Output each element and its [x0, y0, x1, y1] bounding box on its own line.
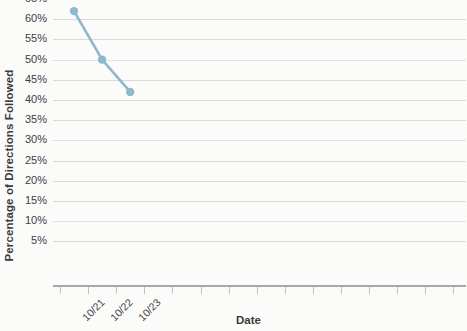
- line-chart: Percentage of Directions Followed 65%60%…: [0, 0, 467, 331]
- gridline: [53, 201, 466, 202]
- y-tick-label: 10%: [1, 215, 47, 226]
- y-tick-label: 25%: [1, 155, 47, 166]
- x-tick: [88, 287, 89, 294]
- x-tick: [229, 287, 230, 294]
- gridline: [53, 241, 466, 242]
- x-tick: [257, 287, 258, 294]
- y-tick-label: 15%: [1, 195, 47, 206]
- y-tick-label: 65%: [1, 0, 47, 4]
- x-tick: [369, 287, 370, 294]
- x-tick: [285, 287, 286, 294]
- gridline: [53, 80, 466, 81]
- x-tick: [341, 287, 342, 294]
- y-tick-label: 55%: [1, 33, 47, 44]
- x-tick: [453, 287, 454, 294]
- y-tick-label: 50%: [1, 54, 47, 65]
- gridline: [53, 19, 466, 20]
- plot-area: [53, 0, 466, 286]
- x-axis-title: Date: [0, 314, 467, 326]
- x-tick: [425, 287, 426, 294]
- gridline: [53, 161, 466, 162]
- x-tick: [144, 287, 145, 294]
- x-tick: [172, 287, 173, 294]
- x-tick: [116, 287, 117, 294]
- y-tick-label: 60%: [1, 13, 47, 24]
- gridline: [53, 100, 466, 101]
- gridline: [53, 39, 466, 40]
- gridline: [53, 120, 466, 121]
- x-axis-line: [53, 285, 466, 287]
- gridline: [53, 181, 466, 182]
- y-tick-label: 40%: [1, 94, 47, 105]
- y-tick-label: 5%: [1, 235, 47, 246]
- x-tick: [60, 287, 61, 294]
- x-tick: [397, 287, 398, 294]
- gridline: [53, 60, 466, 61]
- gridline: [53, 140, 466, 141]
- y-tick-label: 20%: [1, 175, 47, 186]
- y-tick-label: 30%: [1, 134, 47, 145]
- gridline: [53, 221, 466, 222]
- y-tick-label: 45%: [1, 74, 47, 85]
- x-tick: [201, 287, 202, 294]
- x-tick: [313, 287, 314, 294]
- y-tick-label: 35%: [1, 114, 47, 125]
